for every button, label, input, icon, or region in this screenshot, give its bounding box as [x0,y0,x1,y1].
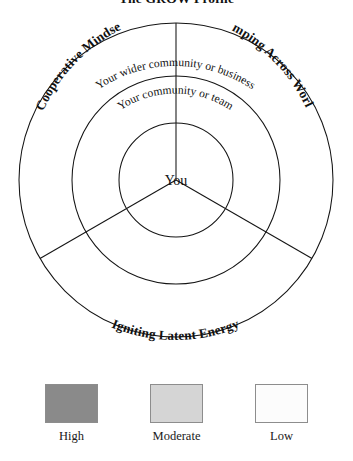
sector-label-left: Cooperative Mindset [0,0,123,113]
center-label-you: You [165,173,188,188]
ring-label-middle: Your community or team [115,84,236,113]
legend-label-moderate: Moderate [153,430,201,443]
legend-label-low: Low [270,430,293,443]
legend-item-high: High [34,384,109,443]
legend-label-high: High [59,430,84,443]
legend-item-low: Low [244,384,319,443]
radial-divider-lower-left [40,180,176,259]
legend: High Moderate Low [0,384,353,456]
legend-swatch-low [255,384,308,423]
legend-swatch-moderate [150,384,203,423]
grow-profile-diagram: Cooperative Mindset Jumping Across World… [0,0,353,375]
legend-swatch-high [45,384,98,423]
radial-divider-lower-right [176,180,312,259]
sector-label-bottom: Igniting Latent Energy [110,316,241,343]
legend-item-moderate: Moderate [139,384,214,443]
concentric-rings-svg: Cooperative Mindset Jumping Across World… [0,0,353,375]
